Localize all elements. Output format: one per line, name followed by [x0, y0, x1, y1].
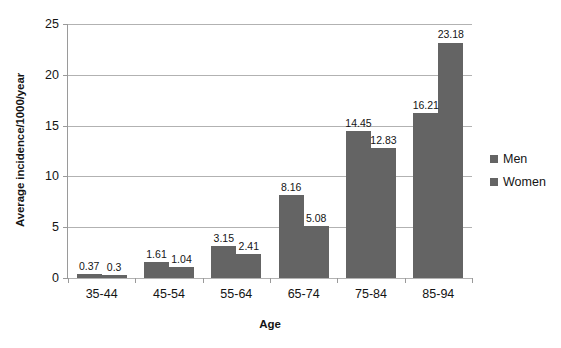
y-axis-tick-label: 5 [52, 220, 59, 234]
bar-chart: Average incidence/1000/year 0510152025 0… [0, 0, 561, 348]
x-axis-tick [135, 278, 136, 283]
bar-value-label: 0.3 [107, 261, 122, 273]
gridline [68, 176, 472, 177]
y-axis-tick [63, 227, 68, 228]
y-axis-tick-label: 20 [45, 68, 59, 82]
legend: MenWomen [490, 152, 546, 189]
bar [236, 254, 261, 278]
y-axis-tick-label: 15 [45, 119, 59, 133]
gridline [68, 227, 472, 228]
x-axis-category-label: 75-84 [355, 287, 387, 301]
bar-value-label: 8.16 [281, 181, 301, 193]
x-axis-tick [337, 278, 338, 283]
legend-item[interactable]: Women [490, 175, 546, 189]
y-axis-tick [63, 24, 68, 25]
y-axis-tick-label: 0 [52, 271, 59, 285]
x-axis-category-label: 85-94 [422, 287, 454, 301]
bar-value-label: 12.83 [370, 134, 396, 146]
plot-area: 0510152025 0.370.31.611.043.152.418.165.… [68, 24, 472, 278]
legend-label: Men [503, 152, 527, 166]
bar-value-label: 3.15 [214, 232, 234, 244]
x-axis-category-label: 45-54 [153, 287, 185, 301]
bar [304, 226, 329, 278]
x-axis-category-label: 65-74 [288, 287, 320, 301]
bar-value-label: 14.45 [345, 117, 371, 129]
x-axis-tick [68, 278, 69, 283]
bar [438, 43, 463, 279]
bar-value-label: 1.61 [146, 248, 166, 260]
x-axis-tick [405, 278, 406, 283]
bar-value-label: 1.04 [171, 253, 191, 265]
legend-item[interactable]: Men [490, 152, 546, 166]
x-axis-title: Age [68, 318, 472, 330]
y-axis-tick-label: 10 [45, 169, 59, 183]
y-axis-title: Average incidence/1000/year [0, 0, 40, 300]
bar-value-label: 0.37 [79, 260, 99, 272]
legend-label: Women [503, 175, 546, 189]
y-axis-tick [63, 126, 68, 127]
bar [211, 246, 236, 278]
y-axis-title-text: Average incidence/1000/year [14, 73, 26, 227]
y-axis-tick-label: 25 [45, 17, 59, 31]
x-axis-tick [472, 278, 473, 283]
bar-value-label: 2.41 [239, 240, 259, 252]
bar [371, 148, 396, 278]
gridline [68, 24, 472, 25]
bar [413, 113, 438, 278]
gridline [68, 75, 472, 76]
bar-value-label: 5.08 [306, 212, 326, 224]
bar [144, 262, 169, 278]
legend-swatch-icon [490, 178, 498, 186]
bar [102, 275, 127, 278]
x-axis-tick [203, 278, 204, 283]
bar [279, 195, 304, 278]
x-axis-tick [270, 278, 271, 283]
y-axis-tick [63, 75, 68, 76]
y-axis-tick [63, 176, 68, 177]
bar [77, 274, 102, 278]
bar [169, 267, 194, 278]
bar-value-label: 23.18 [438, 28, 464, 40]
legend-swatch-icon [490, 155, 498, 163]
x-axis-category-label: 55-64 [220, 287, 252, 301]
bar [346, 131, 371, 278]
y-axis-line [67, 24, 68, 278]
gridline [68, 126, 472, 127]
x-axis-category-label: 35-44 [86, 287, 118, 301]
bar-value-label: 16.21 [413, 99, 439, 111]
